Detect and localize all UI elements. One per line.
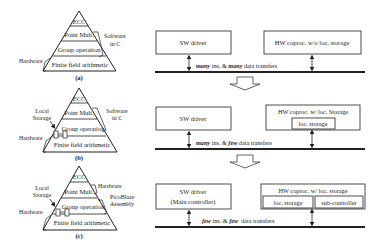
label-picoblaze: PicoBlaze bbox=[110, 194, 135, 200]
hw-coproc-label: HW coproc. w/ loc. storage bbox=[278, 187, 347, 194]
panel-a: ECC Point Mult. Group operation Finite f… bbox=[19, 11, 365, 82]
pyramid-level-ecc: ECC bbox=[72, 173, 86, 180]
local-storage-pointer bbox=[50, 121, 54, 127]
pyramid-b: ECC Point Mult. Group operation Finite f… bbox=[43, 88, 117, 152]
label-local: Local bbox=[35, 108, 49, 114]
label-in-c: in C bbox=[112, 115, 122, 121]
hw-coproc-label: HW coproc. w/ loc. Storage bbox=[278, 108, 348, 115]
sw-driver-label: SW driver bbox=[180, 188, 208, 195]
local-storage-block bbox=[63, 131, 67, 138]
pyramid-level-point-mult: Point Mult. bbox=[64, 109, 94, 116]
label-local: Local bbox=[35, 185, 49, 191]
label-hardware: Hardware bbox=[19, 135, 43, 141]
pyramid-level-ecc: ECC bbox=[72, 18, 86, 25]
bus-label: many ins. & few data transfers bbox=[196, 139, 273, 146]
panel-b: ECC Point Mult. Group operation Finite f… bbox=[19, 88, 365, 162]
bus-label: many ins. & many data transfers bbox=[196, 62, 278, 69]
label-storage: Storage bbox=[33, 115, 52, 121]
label-hardware-top: Hardware bbox=[98, 183, 122, 189]
local-storage-block bbox=[54, 131, 58, 138]
pyramid-a: ECC Point Mult. Group operation Finite f… bbox=[43, 11, 116, 71]
local-storage-block bbox=[56, 209, 60, 216]
label-storage: Storage bbox=[33, 192, 52, 198]
label-assembly: Assembly bbox=[110, 201, 134, 207]
sw-driver-label: SW driver bbox=[180, 39, 208, 46]
loc-storage-label: loc. storage bbox=[298, 120, 327, 127]
local-storage-pointer bbox=[50, 199, 54, 205]
transition-arrow-1 bbox=[230, 77, 260, 90]
label-in-c: in C bbox=[110, 41, 120, 47]
pyramid-level-ffa: Finite field arithmetic bbox=[54, 141, 111, 148]
label-hardware: Hardware bbox=[19, 58, 43, 64]
transition-arrow-2 bbox=[230, 155, 260, 168]
panel-c: ECC Point Mult. Group operation Finite f… bbox=[19, 166, 365, 240]
local-storage-block bbox=[65, 209, 69, 216]
pyramid-level-point-mult: Point Mult. bbox=[64, 188, 94, 195]
pyramid-level-ecc: ECC bbox=[72, 95, 86, 102]
architecture-diagram: ECC Point Mult. Group operation Finite f… bbox=[0, 0, 383, 246]
hw-coproc-label: HW coproc. w/o loc. storage bbox=[275, 39, 350, 46]
sw-driver-label: SW driver bbox=[180, 115, 208, 122]
pyramid-level-group-op: Group operation bbox=[58, 46, 102, 53]
label-software: Software bbox=[104, 33, 126, 39]
caption-b: (b) bbox=[75, 154, 83, 162]
caption-a: (a) bbox=[75, 74, 83, 82]
pyramid-level-ffa: Finite field arithmetic bbox=[54, 219, 111, 226]
sub-controller-label: sub-controller bbox=[321, 199, 357, 206]
bus-label: few ins. & few data transfers bbox=[202, 217, 275, 224]
label-hardware: Hardware bbox=[19, 209, 43, 215]
label-software: Software bbox=[106, 108, 128, 114]
caption-c: (c) bbox=[75, 232, 82, 240]
pyramid-level-group-op: Group operation bbox=[62, 125, 106, 132]
loc-storage-label: loc. storage bbox=[273, 199, 302, 206]
main-controller-label: (Main controller) bbox=[171, 198, 216, 206]
pyramid-level-ffa: Finite field arithmetic bbox=[52, 61, 109, 68]
pyramid-level-point-mult: Point Mult. bbox=[64, 31, 94, 38]
pyramid-c: ECC Point Mult. Group operation Finite f… bbox=[43, 166, 117, 230]
